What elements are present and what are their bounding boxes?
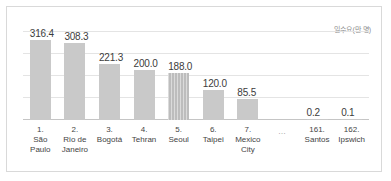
category-label: 162.Ipswich: [334, 125, 369, 155]
category-name-line1: Taipei: [196, 135, 231, 145]
category-axis: 1.SãoPaulo2.Rio deJaneiro3.Bogotá4.Tehra…: [23, 125, 369, 155]
bar[interactable]: 200.0: [134, 70, 155, 120]
bar[interactable]: 316.4: [30, 40, 51, 120]
bar-value-label: 316.4: [30, 28, 54, 39]
bar-value-label: 0.1: [341, 107, 354, 118]
bar-slot: 85.5: [231, 31, 266, 120]
category-name-line1: Seoul: [161, 135, 196, 145]
bar-value-label: 188.0: [168, 61, 192, 72]
category-label: 3.Bogotá: [92, 125, 127, 155]
category-rank: 1.: [23, 125, 58, 135]
bar-slot: 308.3: [58, 31, 93, 120]
bar-value-label: 200.0: [134, 58, 158, 69]
bar[interactable]: 0.1: [341, 119, 362, 120]
category-rank: 162.: [334, 125, 369, 135]
category-name-line1: Santos: [300, 135, 335, 145]
bar-value-label: 308.3: [64, 31, 88, 42]
category-rank: 6.: [196, 125, 231, 135]
category-label: 7.MexicoCity: [231, 125, 266, 155]
category-label: 4.Tehran: [127, 125, 162, 155]
category-label: 6.Taipei: [196, 125, 231, 155]
category-rank: 5.: [161, 125, 196, 135]
category-label: 5.Seoul: [161, 125, 196, 155]
category-name-line1: São: [23, 135, 58, 145]
bar[interactable]: 188.0: [168, 73, 189, 120]
bar-value-label: 85.5: [237, 87, 256, 98]
category-rank: 161.: [300, 125, 335, 135]
bar[interactable]: 120.0: [203, 90, 224, 120]
category-name-line1: …: [265, 127, 300, 137]
category-name-line1: Bogotá: [92, 135, 127, 145]
category-label: 2.Rio deJaneiro: [58, 125, 93, 155]
bar[interactable]: 221.3: [99, 64, 120, 120]
bar[interactable]: 0.2: [307, 119, 328, 120]
bar-slot: 316.4: [23, 31, 58, 120]
category-rank: 3.: [92, 125, 127, 135]
bar-slot: 0.2: [300, 31, 335, 120]
bar-series: 316.4308.3221.3200.0188.0120.085.50.20.1: [23, 31, 369, 120]
bar-value-label: 120.0: [203, 78, 227, 89]
category-rank: 7.: [231, 125, 266, 135]
category-rank: 4.: [127, 125, 162, 135]
category-name-line1: Rio de: [58, 135, 93, 145]
category-ellipsis: …: [265, 125, 300, 155]
category-name-line2: Janeiro: [58, 145, 93, 155]
category-name-line1: Tehran: [127, 135, 162, 145]
category-label: 161.Santos: [300, 125, 335, 155]
bar-slot: 200.0: [127, 31, 162, 120]
category-name-line1: Ipswich: [334, 135, 369, 145]
category-name-line1: Mexico: [231, 135, 266, 145]
bar-value-label: 221.3: [99, 52, 123, 63]
bar-slot: 221.3: [92, 31, 127, 120]
bar-value-label: 0.2: [307, 107, 320, 118]
chart-frame: 일수요(만 명) 316.4308.3221.3200.0188.0120.08…: [6, 6, 382, 172]
category-rank: 2.: [58, 125, 93, 135]
category-name-line2: Paulo: [23, 145, 58, 155]
category-label: 1.SãoPaulo: [23, 125, 58, 155]
bar-slot: 188.0: [161, 31, 196, 120]
bar[interactable]: 308.3: [64, 43, 85, 121]
bar[interactable]: 85.5: [237, 99, 258, 120]
bar-slot: 120.0: [196, 31, 231, 120]
category-name-line2: City: [231, 145, 266, 155]
bar-slot-gap: [265, 31, 300, 120]
bar-slot: 0.1: [334, 31, 369, 120]
